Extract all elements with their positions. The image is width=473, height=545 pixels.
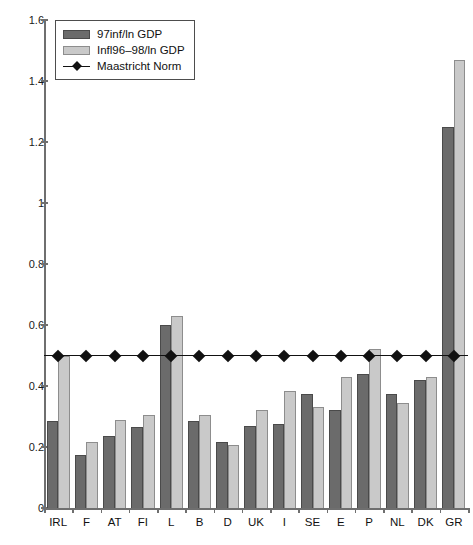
norm-diamond-icon [108,349,121,362]
norm-diamond-icon [52,349,65,362]
x-tick-mark [157,508,159,513]
x-tick-mark [355,508,357,513]
maastricht-norm-markers [44,20,468,508]
x-tick-mark [44,508,46,513]
x-tick-label-irl: IRL [44,516,72,528]
x-tick-label-d: D [214,516,242,528]
norm-diamond-icon [306,349,319,362]
x-tick-label-p: P [355,516,383,528]
x-tick-mark [72,508,74,513]
x-tick-mark [440,508,442,513]
x-tick-label-l: L [157,516,185,528]
norm-diamond-icon [221,349,234,362]
x-tick-label-e: E [327,516,355,528]
norm-diamond-icon [250,349,263,362]
x-tick-label-fi: FI [129,516,157,528]
x-tick-label-i: I [270,516,298,528]
chart-container: 00.20.40.60.811.21.41.6 IRLFATFILBDUKISE… [0,0,473,545]
norm-diamond-icon [391,349,404,362]
x-tick-mark [242,508,244,513]
x-tick-mark [383,508,385,513]
x-tick-label-dk: DK [411,516,439,528]
norm-diamond-icon [137,349,150,362]
x-tick-mark [298,508,300,513]
x-tick-mark [411,508,413,513]
x-tick-label-gr: GR [440,516,468,528]
x-tick-label-uk: UK [242,516,270,528]
x-tick-mark [270,508,272,513]
plot-area [44,20,468,508]
norm-diamond-icon [165,349,178,362]
x-tick-mark [129,508,131,513]
norm-diamond-icon [363,349,376,362]
x-tick-mark [185,508,187,513]
norm-diamond-icon [334,349,347,362]
norm-diamond-icon [419,349,432,362]
norm-diamond-icon [193,349,206,362]
x-tick-label-nl: NL [383,516,411,528]
x-tick-label-f: F [72,516,100,528]
norm-diamond-icon [80,349,93,362]
norm-diamond-icon [278,349,291,362]
x-tick-mark [101,508,103,513]
x-tick-label-se: SE [298,516,326,528]
x-axis-line [44,508,468,510]
x-tick-label-at: AT [101,516,129,528]
x-tick-mark [214,508,216,513]
x-tick-mark [327,508,329,513]
x-tick-label-b: B [185,516,213,528]
x-tick-mark [468,508,470,513]
norm-diamond-icon [447,349,460,362]
